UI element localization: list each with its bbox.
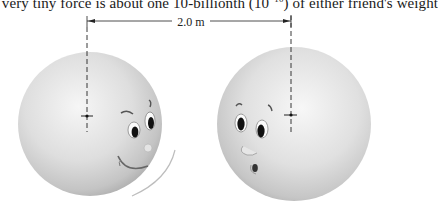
distance-label: 2.0 m — [172, 15, 210, 30]
right-sphere — [217, 15, 371, 201]
left-sphere — [18, 27, 175, 196]
